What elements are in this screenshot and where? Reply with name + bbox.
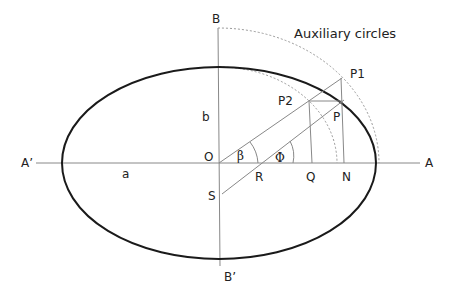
- label-R: R: [255, 171, 263, 183]
- label-b: b: [202, 111, 210, 123]
- label-beta: β: [237, 150, 244, 162]
- label-N: N: [342, 171, 351, 183]
- line-P1-N: [341, 78, 344, 163]
- ellipse-diagram: [0, 0, 454, 297]
- label-B: B: [212, 13, 220, 25]
- label-P1: P1: [350, 68, 365, 80]
- minor-axis: [218, 28, 220, 266]
- label-A-prime: A’: [21, 157, 33, 169]
- label-S: S: [208, 190, 216, 202]
- label-P: P: [333, 111, 340, 123]
- outer-auxiliary-circle: [218, 28, 379, 163]
- label-O: O: [204, 151, 213, 163]
- label-Q: Q: [306, 171, 315, 183]
- label-a: a: [122, 168, 129, 180]
- label-A: A: [425, 157, 433, 169]
- beta-angle-arc: [250, 142, 258, 163]
- line-S-P: [222, 100, 344, 194]
- phi-angle-arc: [290, 141, 294, 163]
- label-P2: P2: [278, 95, 293, 107]
- line-P2-Q: [309, 101, 312, 163]
- label-phi: Φ: [275, 152, 285, 164]
- title-label: Auxiliary circles: [294, 27, 396, 40]
- label-B-prime: B’: [224, 271, 236, 283]
